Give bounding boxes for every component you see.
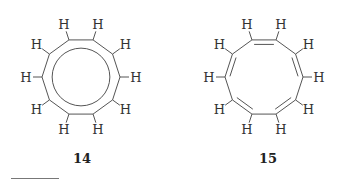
hydrogen-atom: H: [214, 37, 225, 52]
hydrogen-atom: H: [120, 37, 131, 52]
hydrogen-atom: H: [241, 122, 252, 137]
footnote-rule: [11, 178, 59, 179]
hydrogen-atom: H: [120, 102, 131, 117]
hydrogen-atom: H: [31, 37, 42, 52]
structures-canvas: HHHHHHHHHHHHHHHHHHHH: [0, 0, 347, 181]
molecule-14: [33, 31, 129, 122]
hydrogen-atom: H: [303, 37, 314, 52]
hydrogen-atom: H: [92, 122, 103, 137]
hydrogen-labels: HHHHHHHHHHHHHHHHHHHH: [20, 17, 324, 137]
hydrogen-atom: H: [275, 122, 286, 137]
hydrogen-atom: H: [130, 70, 141, 85]
hydrogen-atom: H: [214, 102, 225, 117]
hydrogen-atom: H: [275, 17, 286, 32]
hydrogen-atom: H: [92, 17, 103, 32]
compound-label-15: 15: [259, 151, 277, 166]
hydrogen-atom: H: [241, 17, 252, 32]
hydrogen-atom: H: [20, 70, 31, 85]
hydrogen-atom: H: [203, 70, 214, 85]
hydrogen-atom: H: [303, 102, 314, 117]
hydrogen-atom: H: [58, 122, 69, 137]
hydrogen-atom: H: [313, 70, 324, 85]
hydrogen-atom: H: [58, 17, 69, 32]
compound-label-14: 14: [73, 151, 91, 166]
hydrogen-atom: H: [31, 102, 42, 117]
molecule-15: [216, 31, 312, 122]
